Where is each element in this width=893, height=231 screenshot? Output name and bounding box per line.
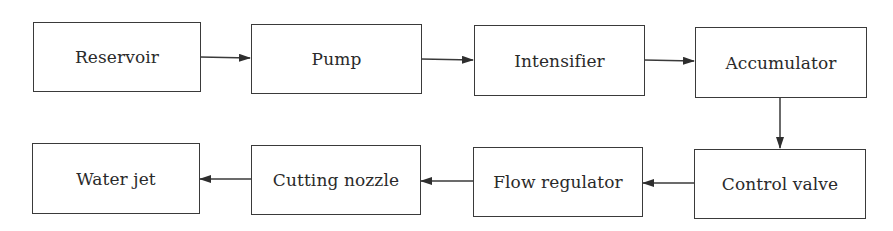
node-cutting-nozzle: Cutting nozzle <box>251 145 421 215</box>
node-label: Intensifier <box>514 51 605 71</box>
node-label: Flow regulator <box>493 172 623 192</box>
node-label: Accumulator <box>725 53 836 73</box>
node-intensifier: Intensifier <box>474 25 645 96</box>
node-flow-regulator: Flow regulator <box>473 147 643 217</box>
arrow-intensifier-to-accumulator <box>644 60 694 61</box>
node-accumulator: Accumulator <box>695 27 867 98</box>
node-pump: Pump <box>251 24 422 94</box>
arrow-reservoir-to-pump <box>200 57 250 58</box>
node-label: Water jet <box>76 169 156 189</box>
node-control-valve: Control valve <box>694 149 866 219</box>
flowchart-canvas: Reservoir Pump Intensifier Accumulator C… <box>0 0 893 231</box>
node-label: Reservoir <box>75 47 159 67</box>
node-label: Pump <box>312 49 362 69</box>
node-water-jet: Water jet <box>32 143 200 214</box>
node-label: Cutting nozzle <box>273 170 399 190</box>
node-label: Control valve <box>722 174 838 194</box>
node-reservoir: Reservoir <box>33 22 201 92</box>
arrow-pump-to-intensifier <box>421 59 473 60</box>
